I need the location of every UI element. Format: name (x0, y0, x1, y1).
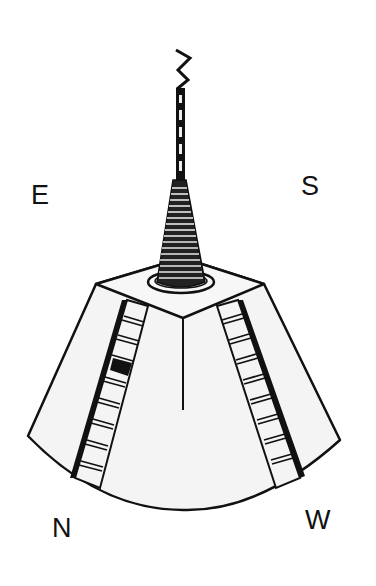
ribbed-spire (157, 180, 205, 287)
structure-drawing (0, 0, 376, 586)
compass-label-north: N (52, 515, 72, 542)
compass-label-west: W (305, 507, 330, 534)
spire-pole (176, 88, 185, 181)
compass-label-east: E (31, 182, 49, 209)
compass-label-south: S (301, 173, 319, 200)
zigzag-tip-icon (176, 50, 190, 89)
